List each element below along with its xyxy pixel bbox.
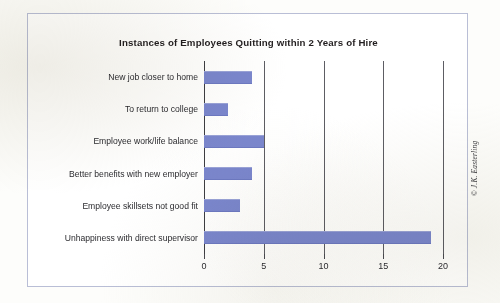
bar: [204, 71, 252, 84]
plot-area: [204, 61, 443, 254]
bar-row: [204, 190, 443, 222]
category-label: Employee work/life balance: [93, 125, 198, 157]
x-tick-label: 10: [309, 261, 339, 271]
chart-title: Instances of Employees Quitting within 2…: [28, 37, 469, 48]
category-label: Better benefits with new employer: [69, 158, 198, 190]
bar: [204, 231, 431, 244]
x-tick-label: 5: [249, 261, 279, 271]
bar-row: [204, 222, 443, 254]
bar-row: [204, 125, 443, 157]
chart-figure-frame: Instances of Employees Quitting within 2…: [27, 13, 468, 287]
category-label: New job closer to home: [108, 61, 198, 93]
bar: [204, 103, 228, 116]
copyright-credit: © J.K. Easterling: [470, 141, 479, 196]
category-label: Employee skillsets not good fit: [82, 190, 198, 222]
bar-row: [204, 61, 443, 93]
bar: [204, 135, 264, 148]
x-tick-mark: [383, 254, 384, 259]
category-label: To return to college: [125, 93, 198, 125]
x-tick-mark: [204, 254, 205, 259]
bar: [204, 199, 240, 212]
x-tick-mark: [264, 254, 265, 259]
x-tick-label: 0: [189, 261, 219, 271]
gridline: [443, 61, 444, 254]
x-tick-label: 15: [368, 261, 398, 271]
bar-row: [204, 158, 443, 190]
bar: [204, 167, 252, 180]
category-label: Unhappiness with direct supervisor: [65, 222, 198, 254]
x-tick-mark: [324, 254, 325, 259]
scanned-page: Instances of Employees Quitting within 2…: [0, 0, 500, 303]
bar-row: [204, 93, 443, 125]
x-tick-label: 20: [428, 261, 458, 271]
x-tick-mark: [443, 254, 444, 259]
